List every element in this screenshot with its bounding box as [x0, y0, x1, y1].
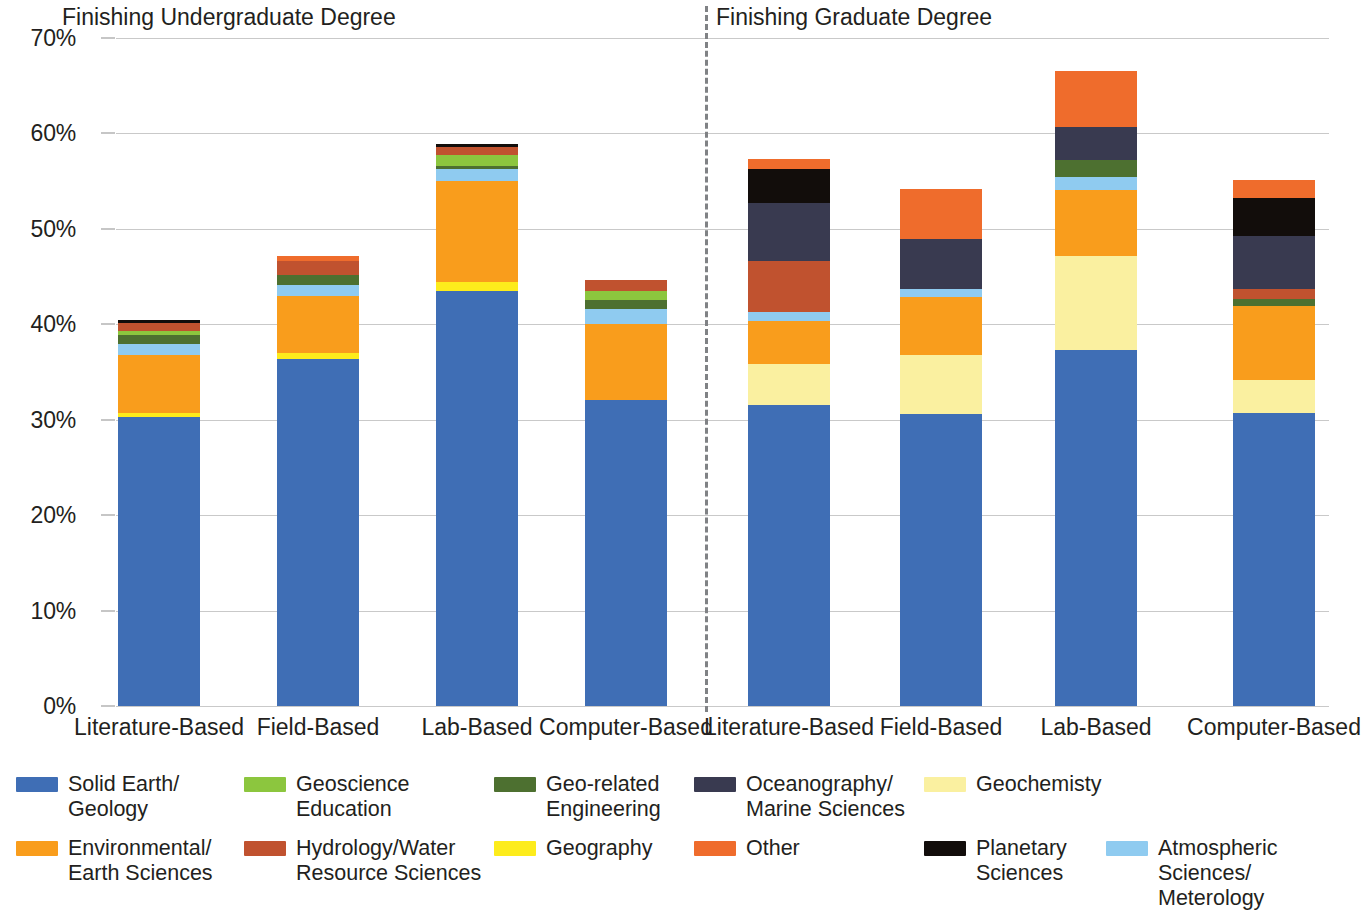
bar-segment[interactable]: [748, 405, 830, 706]
bar-segment[interactable]: [1233, 380, 1315, 413]
bar-segment[interactable]: [1233, 299, 1315, 307]
legend-item[interactable]: Oceanography/ Marine Sciences: [694, 772, 905, 822]
bar-column[interactable]: [1233, 180, 1315, 706]
legend-item-label: Atmospheric Sciences/ Meterology: [1158, 836, 1345, 911]
bar-segment[interactable]: [118, 417, 200, 706]
bar-segment[interactable]: [118, 355, 200, 413]
bar-segment[interactable]: [436, 282, 518, 291]
bar-segment[interactable]: [748, 312, 830, 322]
y-axis-tick-label: 30%: [31, 406, 76, 433]
bar-segment[interactable]: [900, 297, 982, 355]
bar-segment[interactable]: [1233, 236, 1315, 289]
bar-segment[interactable]: [118, 335, 200, 345]
bar-column[interactable]: [585, 280, 667, 706]
legend-color-swatch: [694, 841, 736, 856]
bar-segment[interactable]: [118, 323, 200, 331]
bar-segment[interactable]: [1055, 256, 1137, 350]
bar-segment[interactable]: [1233, 413, 1315, 706]
y-axis-tick: [101, 706, 115, 707]
legend-item[interactable]: Geography: [494, 836, 652, 861]
bar-column[interactable]: [900, 189, 982, 706]
legend-color-swatch: [924, 841, 966, 856]
bar-column[interactable]: [436, 144, 518, 706]
bar-segment[interactable]: [585, 400, 667, 706]
legend-color-swatch: [494, 841, 536, 856]
bar-segment[interactable]: [900, 355, 982, 414]
bar-segment[interactable]: [1233, 198, 1315, 235]
bar-segment[interactable]: [1055, 350, 1137, 706]
bar-segment[interactable]: [585, 291, 667, 300]
legend-item-label: Geochemisty: [976, 772, 1101, 797]
x-axis-label: Computer-Based: [1187, 714, 1361, 741]
bar-segment[interactable]: [436, 291, 518, 706]
bar-segment[interactable]: [748, 364, 830, 405]
bar-segment[interactable]: [748, 261, 830, 312]
bar-segment[interactable]: [277, 285, 359, 295]
bar-segment[interactable]: [585, 280, 667, 290]
bar-segment[interactable]: [1055, 160, 1137, 177]
legend-item[interactable]: Geoscience Education: [244, 772, 410, 822]
bar-segment[interactable]: [1233, 306, 1315, 379]
bar-segment[interactable]: [1055, 190, 1137, 256]
bar-segment[interactable]: [436, 155, 518, 165]
x-axis-label: Literature-Based: [704, 714, 874, 741]
bar-segment[interactable]: [277, 359, 359, 706]
bar-segment[interactable]: [1055, 177, 1137, 189]
legend-item[interactable]: Environmental/ Earth Sciences: [16, 836, 213, 886]
legend-color-swatch: [694, 777, 736, 792]
bar-segment[interactable]: [900, 239, 982, 289]
bar-segment[interactable]: [1233, 289, 1315, 299]
legend-item[interactable]: Planetary Sciences: [924, 836, 1067, 886]
legend-item-label: Geoscience Education: [296, 772, 410, 822]
group-divider: [705, 6, 708, 712]
legend-item[interactable]: Atmospheric Sciences/ Meterology: [1106, 836, 1345, 911]
legend-color-swatch: [244, 777, 286, 792]
bar-segment[interactable]: [900, 289, 982, 297]
bar-column[interactable]: [748, 159, 830, 706]
group-header: Finishing Undergraduate Degree: [62, 4, 396, 31]
bar-segment[interactable]: [118, 344, 200, 354]
y-axis-tick-label: 40%: [31, 311, 76, 338]
legend-item-label: Solid Earth/ Geology: [68, 772, 179, 822]
y-axis-tick: [101, 610, 115, 611]
legend-item[interactable]: Geochemisty: [924, 772, 1101, 797]
bar-segment[interactable]: [748, 203, 830, 261]
y-axis-tick-label: 10%: [31, 597, 76, 624]
bar-segment[interactable]: [748, 169, 830, 203]
bar-segment[interactable]: [585, 324, 667, 399]
y-axis-tick: [101, 228, 115, 229]
bar-segment[interactable]: [1055, 71, 1137, 127]
bar-column[interactable]: [118, 320, 200, 706]
bar-segment[interactable]: [585, 300, 667, 310]
bar-segment[interactable]: [900, 189, 982, 240]
bar-segment[interactable]: [436, 147, 518, 156]
bar-column[interactable]: [1055, 71, 1137, 707]
bar-segment[interactable]: [436, 181, 518, 282]
bar-segment[interactable]: [900, 414, 982, 706]
legend-item[interactable]: Solid Earth/ Geology: [16, 772, 179, 822]
y-axis-tick: [101, 38, 115, 39]
y-axis-tick: [101, 133, 115, 134]
legend-item[interactable]: Hydrology/Water Resource Sciences: [244, 836, 481, 886]
bar-segment[interactable]: [585, 309, 667, 324]
legend-color-swatch: [244, 841, 286, 856]
legend-item[interactable]: Other: [694, 836, 800, 861]
legend-item-label: Other: [746, 836, 800, 861]
y-axis-tick: [101, 324, 115, 325]
bar-segment[interactable]: [1055, 127, 1137, 160]
bar-segment[interactable]: [277, 275, 359, 285]
bar-segment[interactable]: [277, 296, 359, 353]
legend-item-label: Hydrology/Water Resource Sciences: [296, 836, 481, 886]
legend-item-label: Geography: [546, 836, 652, 861]
bar-segment[interactable]: [1233, 180, 1315, 198]
bar-column[interactable]: [277, 256, 359, 706]
y-axis-tick-label: 0%: [43, 693, 76, 720]
bar-segment[interactable]: [277, 261, 359, 274]
bar-segment[interactable]: [436, 169, 518, 181]
x-axis-label: Field-Based: [880, 714, 1003, 741]
bar-segment[interactable]: [748, 321, 830, 364]
legend-color-swatch: [494, 777, 536, 792]
bar-segment[interactable]: [748, 159, 830, 169]
legend-item[interactable]: Geo-related Engineering: [494, 772, 661, 822]
